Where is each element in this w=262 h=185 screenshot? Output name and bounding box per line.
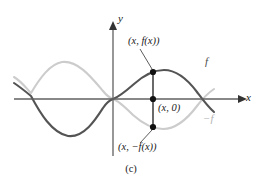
y-axis: [109, 21, 117, 156]
y-axis-label: y: [118, 13, 123, 24]
graph-figure: [0, 0, 262, 185]
curve-neg-f-label: −f: [203, 113, 213, 124]
x-axis-label: x: [246, 92, 251, 103]
point-on-axis: [150, 96, 156, 102]
figure-caption: (c): [0, 163, 262, 174]
curve-f-label: f: [205, 56, 208, 67]
point-on-axis-label: (x, 0): [158, 103, 180, 114]
point-on-f-label: (x, f(x)): [128, 36, 159, 47]
x-axis: [14, 95, 247, 103]
point-on-neg-f-label: (x, −f(x)): [118, 142, 157, 153]
point-on-neg-f: [150, 124, 156, 130]
curve-f: [14, 70, 214, 136]
leader-line-top: [140, 49, 152, 69]
point-on-f: [150, 69, 156, 75]
